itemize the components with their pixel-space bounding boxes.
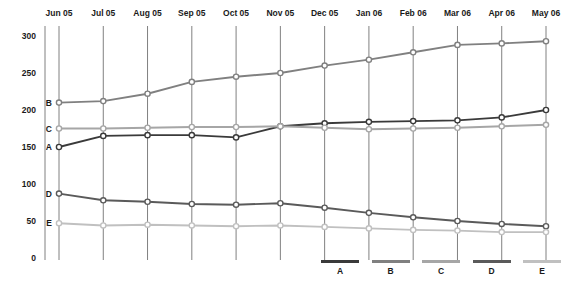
legend-swatch-A bbox=[321, 260, 359, 263]
data-point-E-7 bbox=[366, 226, 371, 231]
data-point-C-10 bbox=[499, 124, 504, 129]
data-point-E-11 bbox=[543, 230, 548, 235]
data-point-B-8 bbox=[411, 50, 416, 55]
data-point-D-4 bbox=[233, 202, 238, 207]
data-point-E-5 bbox=[278, 223, 283, 228]
legend-swatch-D bbox=[473, 260, 511, 263]
data-point-A-0 bbox=[56, 144, 61, 149]
data-point-E-10 bbox=[499, 230, 504, 235]
data-point-C-0 bbox=[56, 126, 61, 131]
legend-item-A[interactable]: A bbox=[318, 260, 362, 276]
data-point-C-1 bbox=[101, 126, 106, 131]
chart-legend: ABCDE bbox=[318, 260, 564, 282]
data-point-C-7 bbox=[366, 127, 371, 132]
data-point-D-3 bbox=[189, 201, 194, 206]
data-point-B-2 bbox=[145, 91, 150, 96]
data-point-D-7 bbox=[366, 210, 371, 215]
legend-swatch-B bbox=[372, 260, 410, 263]
legend-swatch-C bbox=[422, 260, 460, 263]
series-line-B bbox=[59, 41, 546, 102]
legend-item-C[interactable]: C bbox=[419, 260, 463, 276]
data-point-B-4 bbox=[233, 74, 238, 79]
legend-label-A: A bbox=[337, 266, 343, 276]
series-line-D bbox=[59, 194, 546, 227]
data-point-D-2 bbox=[145, 199, 150, 204]
data-point-B-0 bbox=[56, 100, 61, 105]
legend-label-B: B bbox=[387, 266, 393, 276]
data-point-B-11 bbox=[543, 39, 548, 44]
data-point-A-8 bbox=[411, 119, 416, 124]
data-point-A-9 bbox=[455, 118, 460, 123]
data-point-C-9 bbox=[455, 125, 460, 130]
data-point-B-3 bbox=[189, 79, 194, 84]
legend-label-C: C bbox=[438, 266, 444, 276]
data-point-C-6 bbox=[322, 125, 327, 130]
data-point-E-1 bbox=[101, 223, 106, 228]
data-point-B-9 bbox=[455, 42, 460, 47]
data-point-D-1 bbox=[101, 198, 106, 203]
data-point-C-11 bbox=[543, 122, 548, 127]
data-point-D-9 bbox=[455, 218, 460, 223]
data-point-E-3 bbox=[189, 223, 194, 228]
data-point-E-0 bbox=[56, 221, 61, 226]
legend-swatch-E bbox=[523, 260, 561, 263]
data-point-C-4 bbox=[233, 124, 238, 129]
data-point-A-10 bbox=[499, 115, 504, 120]
data-point-E-8 bbox=[411, 227, 416, 232]
data-point-A-2 bbox=[145, 133, 150, 138]
legend-label-E: E bbox=[539, 266, 545, 276]
data-point-C-2 bbox=[145, 125, 150, 130]
data-point-C-8 bbox=[411, 126, 416, 131]
data-point-A-4 bbox=[233, 135, 238, 140]
data-point-A-1 bbox=[101, 133, 106, 138]
data-point-E-2 bbox=[145, 222, 150, 227]
data-point-D-10 bbox=[499, 221, 504, 226]
data-point-A-11 bbox=[543, 107, 548, 112]
data-point-B-10 bbox=[499, 41, 504, 46]
data-point-B-6 bbox=[322, 63, 327, 68]
data-point-D-8 bbox=[411, 215, 416, 220]
data-point-B-1 bbox=[101, 99, 106, 104]
series-line-E bbox=[59, 223, 546, 232]
data-point-C-3 bbox=[189, 124, 194, 129]
data-point-B-5 bbox=[278, 70, 283, 75]
data-point-B-7 bbox=[366, 57, 371, 62]
data-point-A-3 bbox=[189, 133, 194, 138]
data-point-D-5 bbox=[278, 201, 283, 206]
plot-area bbox=[0, 0, 569, 284]
legend-item-B[interactable]: B bbox=[369, 260, 413, 276]
data-point-D-11 bbox=[543, 224, 548, 229]
data-point-A-7 bbox=[366, 119, 371, 124]
data-point-E-6 bbox=[322, 224, 327, 229]
data-point-D-0 bbox=[56, 191, 61, 196]
data-point-C-5 bbox=[278, 124, 283, 129]
legend-item-E[interactable]: E bbox=[520, 260, 564, 276]
legend-item-D[interactable]: D bbox=[470, 260, 514, 276]
data-point-D-6 bbox=[322, 205, 327, 210]
line-chart: Jun 05Jul 05Aug 05Sep 05Oct 05Nov 05Dec … bbox=[0, 0, 569, 284]
data-point-E-9 bbox=[455, 228, 460, 233]
data-point-E-4 bbox=[233, 224, 238, 229]
legend-label-D: D bbox=[488, 266, 494, 276]
